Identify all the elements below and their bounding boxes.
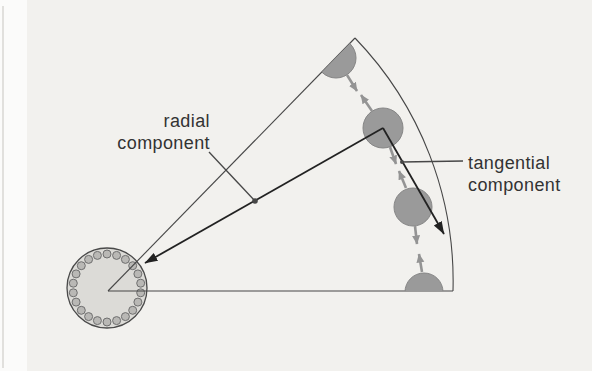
hub-bead [137,279,145,287]
hub-bead [93,251,101,259]
page-left-margin [0,0,27,371]
radial-label-pointer-dot [252,198,258,204]
hub-bead [69,279,77,287]
hub-bead [77,306,85,314]
hub-bead [137,289,145,297]
hub-bead [103,318,111,326]
diagram-page: radial component tangential component [0,0,592,371]
hub-circle [67,248,147,328]
hub-bead [113,317,121,325]
hub-bead [129,306,137,314]
hub-bead [113,251,121,259]
tangential-label-pointer-dot [400,160,404,164]
hub-bead [134,270,142,278]
hub-bead [77,262,85,270]
hub-group [67,248,147,328]
hub-bead [103,250,111,258]
circular-motion-diagram: radial component tangential component [0,0,592,371]
hub-bead [121,255,129,263]
radial-label-line1: radial [164,111,210,131]
tangential-label-line1: tangential [468,153,550,173]
hub-bead [134,298,142,306]
hub-bead [85,255,93,263]
radial-label-line2: component [117,133,210,153]
hub-bead [69,289,77,297]
hub-bead [72,298,80,306]
hub-bead [121,313,129,321]
hub-bead [85,313,93,321]
orbit-ball-3 [394,188,432,226]
hub-bead [72,270,80,278]
hub-bead [93,317,101,325]
tangential-label-line2: component [468,175,561,195]
